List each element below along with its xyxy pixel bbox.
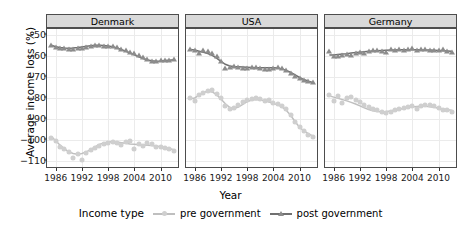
facet-strip-label: Germany (324, 14, 457, 28)
y-tick-label: −50 (8, 29, 46, 40)
x-tick-label: 1992 (70, 173, 93, 183)
y-tick-label: −90 (8, 112, 46, 123)
data-point-pre-government (327, 92, 332, 97)
facet-strip-label: Denmark (46, 14, 179, 28)
x-tick-label: 2004 (401, 173, 424, 183)
x-axis: 19861992199820042010 (185, 168, 318, 190)
y-tick-mark (44, 96, 47, 97)
data-point-pre-government (75, 152, 80, 157)
plot-area (185, 28, 318, 168)
x-tick-mark (300, 168, 301, 171)
y-tick-label: −70 (8, 71, 46, 82)
facet-panel-germany: Germany (324, 14, 457, 168)
x-tick-label: 1992 (209, 173, 232, 183)
x-tick-mark (56, 168, 57, 171)
y-tick-mark (44, 159, 47, 160)
data-point-post-government (310, 80, 316, 85)
data-point-pre-government (310, 134, 315, 139)
x-tick-mark (412, 168, 413, 171)
x-tick-mark (221, 168, 222, 171)
y-tick-label: −60 (8, 50, 46, 61)
x-tick-label: 1992 (348, 173, 371, 183)
facet-panel-denmark: Denmark (46, 14, 179, 168)
data-point-pre-government (79, 157, 84, 162)
data-point-pre-government (331, 99, 336, 104)
legend-item-pre-government[interactable]: pre government (153, 207, 261, 219)
data-point-pre-government (449, 109, 454, 114)
x-tick-mark (334, 168, 335, 171)
y-tick-mark (44, 76, 47, 77)
facet-panel-usa: USA (185, 14, 318, 168)
y-tick-label: −100 (8, 133, 46, 144)
x-axis-title: Year (0, 189, 461, 201)
x-tick-label: 1998 (375, 173, 398, 183)
x-tick-mark (360, 168, 361, 171)
data-point-pre-government (293, 119, 298, 124)
data-point-pre-government (132, 147, 137, 152)
y-tick-mark (44, 34, 47, 35)
x-axis: 19861992199820042010 (46, 168, 179, 190)
data-point-pre-government (127, 138, 132, 143)
x-tick-mark (439, 168, 440, 171)
x-tick-mark (82, 168, 83, 171)
data-point-pre-government (284, 107, 289, 112)
data-point-pre-government (66, 150, 71, 155)
x-tick-label: 2010 (288, 173, 311, 183)
data-point-pre-government (340, 101, 345, 106)
x-tick-label: 2004 (262, 173, 285, 183)
x-tick-mark (134, 168, 135, 171)
data-point-pre-government (171, 149, 176, 154)
legend-title: Income type (79, 207, 144, 219)
x-tick-label: 1998 (236, 173, 259, 183)
y-tick-mark (44, 138, 47, 139)
data-point-pre-government (218, 95, 223, 100)
data-point-post-government (218, 59, 224, 64)
y-tick-mark (44, 117, 47, 118)
y-tick-label: −110 (8, 154, 46, 165)
data-point-post-government (171, 57, 177, 62)
data-point-pre-government (336, 93, 341, 98)
y-tick-mark (44, 55, 47, 56)
data-point-pre-government (192, 99, 197, 104)
data-point-pre-government (288, 112, 293, 117)
x-tick-label: 2010 (149, 173, 172, 183)
data-point-post-government (449, 49, 455, 54)
facet-strip-label: USA (185, 14, 318, 28)
plot-area (46, 28, 179, 168)
legend-item-post-government[interactable]: post government (270, 207, 383, 219)
triangle-marker-icon (270, 207, 292, 219)
x-tick-label: 1986 (322, 173, 345, 183)
x-tick-mark (161, 168, 162, 171)
plot-area (324, 28, 457, 168)
x-tick-label: 1998 (97, 173, 120, 183)
data-point-pre-government (53, 138, 58, 143)
circle-marker-icon (153, 207, 175, 219)
x-tick-label: 2004 (123, 173, 146, 183)
x-tick-mark (247, 168, 248, 171)
x-tick-mark (386, 168, 387, 171)
legend-label-pre-government: pre government (180, 208, 261, 219)
y-tick-label: −80 (8, 91, 46, 102)
x-tick-label: 2010 (427, 173, 450, 183)
x-tick-label: 1986 (183, 173, 206, 183)
legend-label-post-government: post government (297, 208, 383, 219)
x-axis: 19861992199820042010 (324, 168, 457, 190)
x-tick-label: 1986 (44, 173, 67, 183)
chart-legend: Income type pre government post governme… (0, 207, 461, 219)
x-tick-mark (195, 168, 196, 171)
x-tick-mark (273, 168, 274, 171)
x-tick-mark (108, 168, 109, 171)
